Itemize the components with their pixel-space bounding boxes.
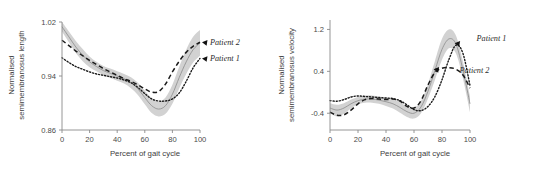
length-control-band	[62, 22, 200, 117]
svg-text:1.02: 1.02	[41, 18, 56, 27]
velocity-legend-label: Patient 1	[476, 34, 507, 43]
chart-panel-length: 020406080100 0.860.941.02 Patient 2Patie…	[0, 0, 268, 172]
svg-text:60: 60	[141, 135, 149, 144]
velocity-control-band	[330, 29, 470, 118]
svg-text:0.94: 0.94	[41, 72, 56, 81]
svg-text:40: 40	[113, 135, 121, 144]
velocity-y-axis-title-line2: semimembranosus velocity	[287, 28, 296, 122]
svg-text:60: 60	[410, 135, 418, 144]
svg-text:0: 0	[60, 135, 64, 144]
velocity-y-ticks: -0.40.41.2	[311, 25, 330, 118]
svg-text:100: 100	[194, 135, 207, 144]
length-y-ticks: 0.860.941.02	[41, 18, 62, 135]
svg-text:0.86: 0.86	[41, 126, 56, 135]
svg-text:0: 0	[328, 135, 332, 144]
velocity-x-axis-title: Percent of gait cycle	[380, 149, 450, 158]
svg-text:20: 20	[354, 135, 362, 144]
gait-analysis-figure: 020406080100 0.860.941.02 Patient 2Patie…	[0, 0, 536, 172]
length-x-ticks: 020406080100	[60, 130, 206, 144]
velocity-legend-label: Patient 2	[459, 66, 490, 75]
length-annotation-arrow-icon	[202, 56, 208, 62]
length-x-axis-title: Percent of gait cycle	[110, 149, 180, 158]
length-y-axis-title-line1: Normalised	[7, 55, 16, 94]
velocity-plot-area	[330, 29, 470, 118]
length-annotations: Patient 2Patient 1	[202, 38, 240, 63]
length-legend-label: Patient 2	[209, 38, 240, 47]
svg-text:100: 100	[464, 135, 477, 144]
length-chart-svg: 020406080100 0.860.941.02 Patient 2Patie…	[0, 0, 268, 172]
svg-text:80: 80	[168, 135, 176, 144]
length-legend-label: Patient 1	[209, 54, 240, 63]
velocity-x-ticks: 020406080100	[328, 130, 476, 144]
svg-text:1.2: 1.2	[313, 25, 324, 34]
velocity-chart-svg: 020406080100 -0.40.41.2 Patient 1Patient…	[268, 0, 536, 172]
svg-text:80: 80	[438, 135, 446, 144]
chart-panel-velocity: 020406080100 -0.40.41.2 Patient 1Patient…	[268, 0, 536, 172]
length-plot-area	[62, 22, 200, 117]
svg-text:-0.4: -0.4	[311, 109, 324, 118]
svg-text:40: 40	[382, 135, 390, 144]
velocity-y-axis-title-line1: Normalised	[277, 55, 286, 94]
svg-text:20: 20	[85, 135, 93, 144]
svg-text:0.4: 0.4	[313, 67, 324, 76]
length-y-axis-title-line2: semimembranosus length	[17, 30, 26, 119]
length-annotation-arrow-icon	[202, 40, 208, 46]
